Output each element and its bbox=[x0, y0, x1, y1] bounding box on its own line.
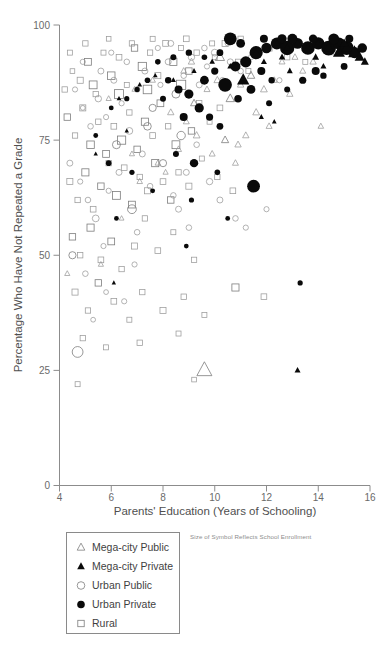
data-point-circle bbox=[247, 180, 260, 193]
data-point-square bbox=[121, 165, 127, 171]
data-point-triangle bbox=[163, 169, 168, 174]
legend-item-rural[interactable]: Rural bbox=[78, 617, 117, 629]
data-point-circle bbox=[124, 59, 130, 65]
data-point-triangle bbox=[112, 280, 116, 284]
data-point-square bbox=[108, 238, 115, 245]
legend-items: Mega-city PublicMega-city PrivateUrban P… bbox=[77, 541, 173, 629]
data-point-square bbox=[72, 289, 78, 295]
data-point-circle bbox=[204, 64, 209, 69]
data-point-square bbox=[176, 331, 181, 336]
data-point-square bbox=[116, 54, 122, 60]
data-point-circle bbox=[85, 197, 91, 203]
data-point-triangle bbox=[312, 53, 319, 59]
data-point-square bbox=[85, 308, 90, 313]
data-point-triangle bbox=[119, 216, 124, 220]
legend-item-mega_public[interactable]: Mega-city Public bbox=[77, 541, 169, 553]
data-point-circle bbox=[277, 78, 282, 83]
data-point-circle bbox=[111, 77, 117, 83]
legend-item-mega_private[interactable]: Mega-city Private bbox=[77, 560, 173, 572]
data-point-triangle bbox=[300, 68, 306, 74]
legend-label-urban_public: Urban Public bbox=[92, 579, 152, 591]
y-tick-label: 50 bbox=[39, 250, 51, 261]
data-point-square bbox=[67, 179, 73, 185]
data-point-square bbox=[137, 340, 142, 345]
data-point-square bbox=[168, 197, 174, 203]
y-axis: 0255075100 Percentage Who Have Not Repea… bbox=[12, 20, 60, 492]
data-point-triangle bbox=[94, 151, 98, 155]
data-point-square bbox=[89, 81, 97, 89]
data-point-square bbox=[285, 55, 290, 60]
data-point-circle bbox=[202, 45, 208, 51]
y-axis-ticks: 0255075100 bbox=[33, 20, 59, 492]
y-axis-title: Percentage Who Have Not Repeated a Grade bbox=[12, 138, 24, 373]
data-point-circle bbox=[189, 197, 194, 202]
data-point-circle bbox=[264, 207, 269, 212]
data-point-square bbox=[75, 382, 80, 387]
data-point-circle bbox=[309, 35, 317, 43]
x-tick-label: 4 bbox=[57, 492, 63, 503]
y-tick-label: 25 bbox=[39, 365, 51, 376]
x-tick-label: 16 bbox=[364, 492, 376, 503]
data-point-square bbox=[62, 87, 67, 92]
data-point-square bbox=[142, 216, 147, 221]
data-point-circle bbox=[104, 290, 109, 295]
data-point-triangle bbox=[153, 73, 158, 77]
data-point-circle bbox=[277, 34, 286, 43]
y-tick-label: 100 bbox=[33, 20, 50, 31]
legend: Mega-city PublicMega-city PrivateUrban P… bbox=[67, 533, 180, 634]
data-point-circle bbox=[160, 96, 166, 102]
series-mega_public bbox=[65, 49, 337, 375]
legend-marker-urban_public bbox=[77, 582, 85, 590]
legend-marker-urban_private bbox=[77, 601, 85, 609]
data-point-square bbox=[230, 188, 236, 194]
data-point-square bbox=[106, 37, 111, 42]
data-point-circle bbox=[103, 115, 108, 120]
data-point-triangle bbox=[320, 63, 326, 69]
legend-item-urban_public[interactable]: Urban Public bbox=[77, 579, 152, 591]
size-note: Size of Symbol Reflects School Enrollmen… bbox=[190, 533, 312, 540]
scatter-plot: 0255075100 Percentage Who Have Not Repea… bbox=[0, 0, 390, 666]
data-point-circle bbox=[215, 170, 221, 176]
data-point-square bbox=[172, 141, 180, 149]
data-point-square bbox=[186, 183, 192, 189]
data-point-circle bbox=[211, 67, 218, 74]
data-point-circle bbox=[186, 225, 192, 231]
data-point-circle bbox=[155, 45, 160, 50]
data-point-circle bbox=[240, 56, 251, 67]
data-point-square bbox=[183, 36, 189, 42]
data-point-circle bbox=[98, 68, 104, 74]
data-point-circle bbox=[67, 160, 73, 166]
legend-marker-mega_private bbox=[77, 562, 85, 569]
data-point-circle bbox=[128, 205, 137, 214]
data-point-circle bbox=[135, 87, 140, 92]
x-axis-ticks: 46810121416 bbox=[57, 486, 376, 504]
data-point-square bbox=[150, 133, 156, 139]
data-point-circle bbox=[80, 105, 85, 110]
data-point-triangle bbox=[65, 271, 70, 276]
x-tick-label: 10 bbox=[209, 492, 221, 503]
data-point-circle bbox=[150, 188, 155, 193]
legend-label-mega_public: Mega-city Public bbox=[92, 541, 169, 553]
data-point-circle bbox=[181, 73, 187, 79]
data-point-circle bbox=[92, 215, 99, 222]
legend-marker-rural bbox=[78, 620, 84, 626]
series-urban_private bbox=[93, 32, 367, 285]
data-point-square bbox=[77, 77, 83, 83]
data-point-circle bbox=[132, 262, 137, 267]
data-point-triangle bbox=[168, 109, 174, 115]
legend-marker-mega_public bbox=[77, 543, 85, 550]
data-point-circle bbox=[93, 133, 98, 138]
data-point-square bbox=[150, 36, 155, 41]
data-point-square bbox=[127, 110, 132, 115]
data-point-square bbox=[129, 41, 134, 46]
data-point-square bbox=[132, 243, 138, 249]
data-point-circle bbox=[184, 89, 193, 98]
data-point-circle bbox=[116, 169, 122, 175]
data-point-square bbox=[303, 59, 308, 64]
data-point-triangle bbox=[137, 82, 142, 86]
data-point-triangle bbox=[137, 178, 143, 183]
legend-item-urban_private[interactable]: Urban Private bbox=[77, 598, 156, 610]
data-point-triangle bbox=[171, 77, 176, 82]
data-point-square bbox=[127, 317, 132, 322]
data-point-circle bbox=[155, 59, 161, 65]
